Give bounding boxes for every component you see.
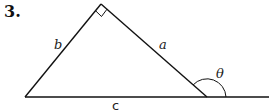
label-theta: θ [216, 66, 224, 81]
triangle-diagram: b a c θ [0, 0, 269, 112]
label-a: a [159, 37, 167, 52]
label-c: c [112, 98, 119, 112]
side-a [101, 4, 207, 97]
theta-arc [193, 79, 226, 97]
label-b: b [54, 37, 62, 52]
side-b [25, 4, 101, 97]
right-angle-marker [96, 9, 108, 16]
